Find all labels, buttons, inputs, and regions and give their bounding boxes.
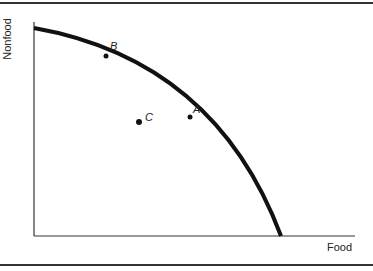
point-a [188,115,193,120]
ppf-diagram [0,0,373,271]
frontier-curve [34,28,281,236]
x-axis-label: Food [327,241,352,253]
point-c [136,119,142,125]
label-a: A [193,103,200,115]
label-b: B [110,40,117,52]
label-c: C [145,111,153,123]
point-b [104,54,109,59]
y-axis-label: Nonfood [4,15,20,65]
